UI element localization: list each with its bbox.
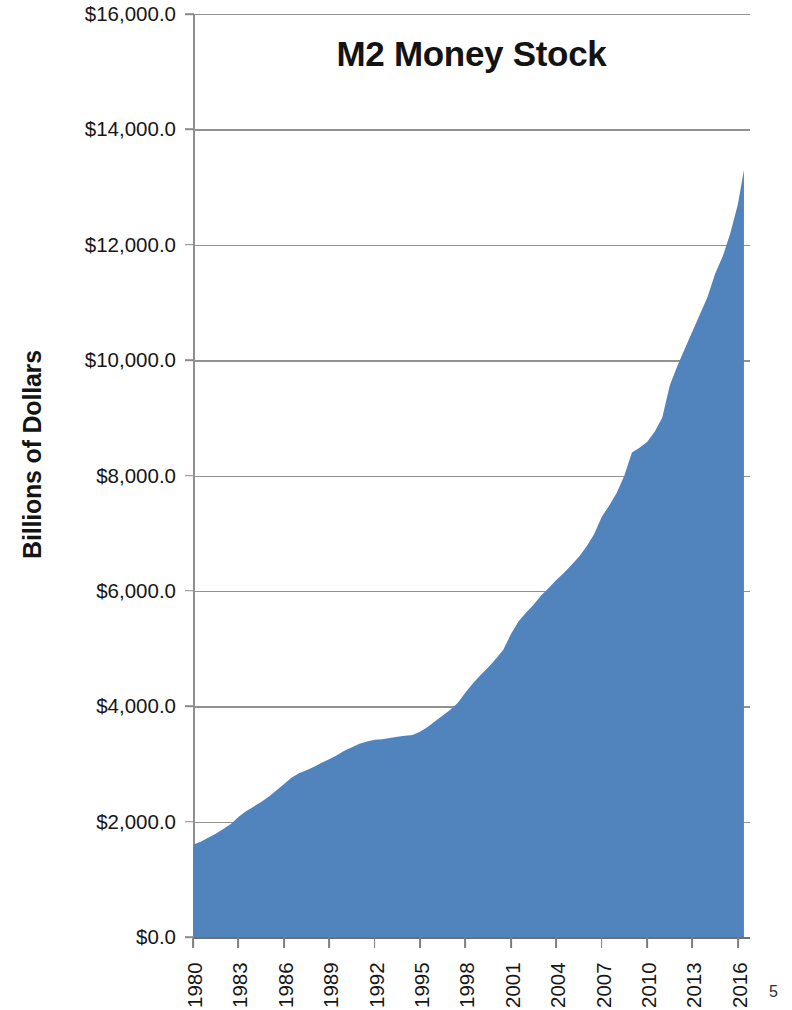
x-axis-tick-label-text: 1992 (365, 962, 389, 1008)
y-axis-tick-label: $12,000.0 (85, 233, 176, 257)
y-axis-tick-mark (185, 129, 194, 131)
y-axis-tick-label: $10,000.0 (85, 348, 176, 372)
x-axis-tick-marks (193, 937, 750, 949)
chart-title: M2 Money Stock (193, 34, 750, 74)
y-axis-tick-label: $8,000.0 (96, 464, 176, 488)
area-series (193, 14, 750, 937)
x-axis-tick-mark (283, 937, 285, 948)
y-axis-tick-mark (185, 821, 194, 823)
plot-area (193, 14, 750, 937)
y-axis-tick-label: $2,000.0 (96, 810, 176, 834)
y-axis-tick-mark (185, 936, 194, 938)
y-axis-tick-mark (185, 244, 194, 246)
x-axis-tick-label-text: 2007 (592, 962, 616, 1008)
y-axis-tick-label: $14,000.0 (85, 117, 176, 141)
x-axis-tick-mark (192, 937, 194, 948)
y-axis-tick-label: $6,000.0 (96, 579, 176, 603)
x-axis-tick-label-text: 2001 (501, 962, 525, 1008)
chart-figure: Billions of Dollars $0.0$2,000.0$4,000.0… (0, 0, 792, 1010)
x-axis-tick-label-text: 2016 (728, 962, 752, 1008)
y-axis-tick-label: $16,000.0 (85, 2, 176, 26)
x-axis-tick-mark (555, 937, 557, 948)
x-axis-tick-label-text: 2010 (637, 962, 661, 1008)
x-axis-tick-label-text: 1989 (319, 962, 343, 1008)
page-number: 5 (769, 983, 778, 1001)
y-axis-title: Billions of Dollars (18, 305, 47, 605)
y-axis-tick-mark (185, 359, 194, 361)
y-axis-tick-labels: $0.0$2,000.0$4,000.0$6,000.0$8,000.0$10,… (44, 0, 184, 1010)
x-axis-tick-mark (601, 937, 603, 948)
x-axis-tick-label-text: 1980 (183, 962, 207, 1008)
x-axis-tick-label-text: 2013 (682, 962, 706, 1008)
y-axis-tick-mark (185, 475, 194, 477)
x-axis-tick-mark (419, 937, 421, 948)
x-axis-tick-mark (465, 937, 467, 948)
x-axis-tick-label-text: 1995 (410, 962, 434, 1008)
x-axis-tick-mark (510, 937, 512, 948)
x-axis-tick-mark (646, 937, 648, 948)
x-axis-tick-labels: 1980198319861989199219951998200120042007… (193, 950, 750, 1010)
x-axis-tick-mark (328, 937, 330, 948)
x-axis-tick-label-text: 1998 (455, 962, 479, 1008)
x-axis-tick-mark (238, 937, 240, 948)
y-axis-tick-mark (185, 590, 194, 592)
y-axis-tick-mark (185, 705, 194, 707)
x-axis-tick-label-text: 1986 (274, 962, 298, 1008)
area-series-path (193, 170, 744, 937)
x-axis-tick-mark (374, 937, 376, 948)
x-axis-tick-label-text: 2004 (546, 962, 570, 1008)
x-axis-tick-label-text: 1983 (228, 962, 252, 1008)
y-axis-tick-mark (185, 13, 194, 15)
y-axis-tick-label: $4,000.0 (96, 694, 176, 718)
x-axis-tick-mark (737, 937, 739, 948)
x-axis-tick-mark (692, 937, 694, 948)
y-axis-tick-label: $0.0 (136, 925, 176, 949)
